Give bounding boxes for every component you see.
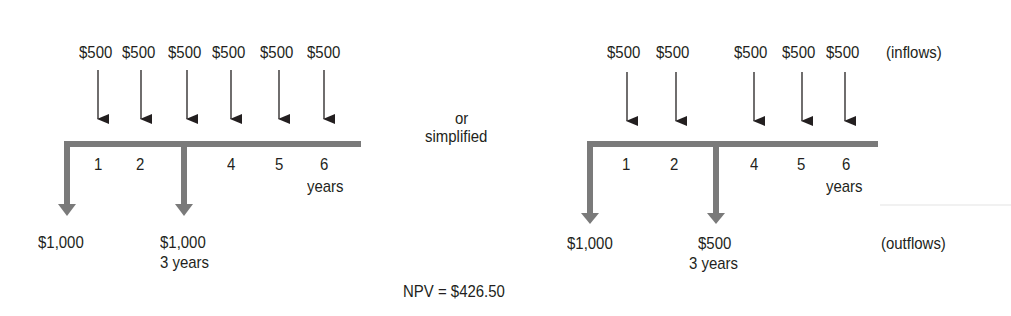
left-inflow-label-4: $500: [212, 43, 245, 62]
left-tick-2: 2: [136, 155, 144, 174]
right-outflow-sublabel-3: 3 years: [689, 254, 738, 273]
right-axis-unit: years: [826, 177, 863, 196]
left-inflow-label-6: $500: [307, 43, 340, 62]
right-inflow-label-4: $500: [734, 43, 767, 62]
left-axis-unit: years: [307, 177, 344, 196]
left-tick-1: 1: [94, 155, 102, 174]
right-outflow-label-3: $500: [698, 234, 731, 253]
left-inflow-label-1: $500: [79, 43, 112, 62]
right-tick-1: 1: [622, 155, 630, 174]
connector-or: or: [455, 109, 468, 128]
right-tick-2: 2: [670, 155, 678, 174]
left-inflow-label-3: $500: [168, 43, 201, 62]
left-tick-6: 6: [320, 155, 328, 174]
left-inflow-label-5: $500: [260, 43, 293, 62]
right-tick-4: 4: [750, 155, 758, 174]
right-inflow-label-6: $500: [826, 43, 859, 62]
outflows-caption: (outflows): [881, 234, 946, 253]
right-inflow-label-5: $500: [782, 43, 815, 62]
right-tick-6: 6: [842, 155, 850, 174]
right-tick-5: 5: [797, 155, 805, 174]
inflows-caption: (inflows): [886, 43, 942, 62]
left-tick-4: 4: [227, 155, 235, 174]
left-inflow-label-2: $500: [122, 43, 155, 62]
right-inflow-label-1: $500: [607, 43, 640, 62]
left-outflow-label-0: $1,000: [38, 233, 84, 252]
connector-simplified: simplified: [425, 127, 487, 146]
right-timeline: [581, 72, 878, 224]
left-tick-5: 5: [275, 155, 283, 174]
left-outflow-sublabel-3: 3 years: [160, 253, 209, 272]
right-inflow-label-2: $500: [656, 43, 689, 62]
right-outflow-label-0: $1,000: [567, 234, 613, 253]
left-outflow-label-3: $1,000: [160, 233, 206, 252]
npv-result: NPV = $426.50: [403, 282, 505, 301]
